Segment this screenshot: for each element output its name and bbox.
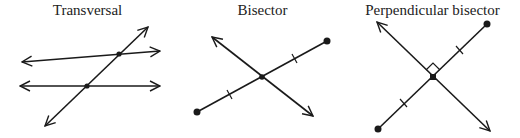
midpoint [259,74,265,80]
upper-line [22,51,160,62]
endpoint [484,21,491,28]
midpoint [430,74,436,80]
endpoint [324,38,331,45]
right-angle-mark [426,63,440,70]
endpoint [194,109,201,116]
intersection-point [84,83,89,88]
transversal-line [45,27,148,126]
diagram-canvas [0,0,520,138]
endpoint [375,126,382,133]
intersection-point [116,51,121,56]
